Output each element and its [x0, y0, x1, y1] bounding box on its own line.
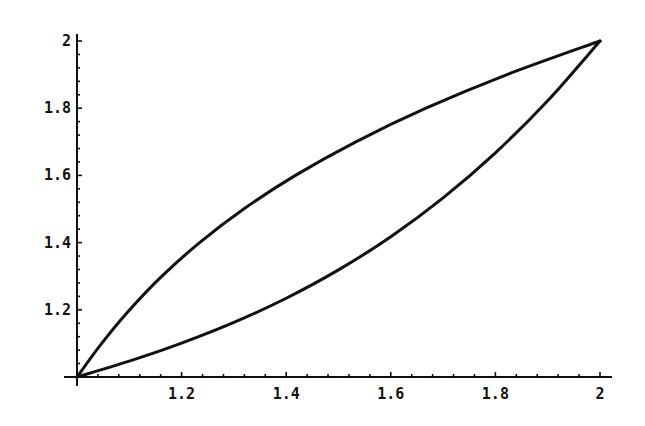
upper-curve-line: [77, 41, 600, 377]
x-tick-label: 1.4: [273, 385, 300, 403]
y-tick-label: 1.4: [44, 234, 71, 252]
series-group: [77, 41, 600, 377]
tick-labels: 1.21.41.61.821.21.41.61.82: [44, 32, 605, 403]
x-tick-label: 1.8: [482, 385, 509, 403]
axes: [64, 34, 612, 386]
y-tick-label: 1.2: [44, 301, 71, 319]
x-tick-label: 2: [595, 385, 604, 403]
x-tick-label: 1.6: [377, 385, 404, 403]
lower-curve-line: [77, 41, 600, 377]
y-tick-label: 1.8: [44, 99, 71, 117]
y-tick-label: 1.6: [44, 166, 71, 184]
x-tick-label: 1.2: [168, 385, 195, 403]
chart: 1.21.41.61.821.21.41.61.82: [0, 0, 645, 426]
y-tick-label: 2: [62, 32, 71, 50]
